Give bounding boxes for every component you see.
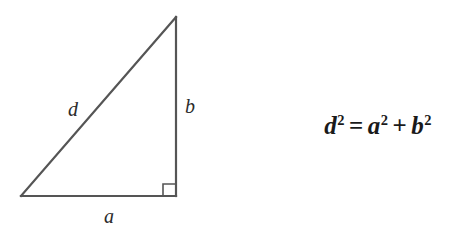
equation-text: d2=a2+b2	[324, 113, 432, 138]
hypotenuse-line	[21, 17, 176, 196]
equation-lhs-base: d	[324, 112, 337, 139]
equation-plus-sign: +	[388, 112, 411, 139]
equation-term2-exponent: 2	[424, 111, 432, 127]
hypotenuse-label: d	[68, 99, 78, 119]
horizontal-leg-label: a	[104, 206, 114, 226]
right-triangle-diagram	[0, 0, 236, 234]
equation-lhs-exponent: 2	[337, 111, 345, 127]
pythagorean-equation: d2=a2+b2	[290, 106, 466, 144]
figure-root: d b a d2=a2+b2	[0, 0, 472, 234]
triangle-outline	[21, 17, 176, 196]
vertical-leg-label: b	[185, 96, 195, 116]
equation-term1-base: a	[368, 112, 381, 139]
right-angle-marker-icon	[163, 184, 176, 196]
equation-equals-sign: =	[345, 112, 368, 139]
equation-term2-base: b	[411, 112, 424, 139]
